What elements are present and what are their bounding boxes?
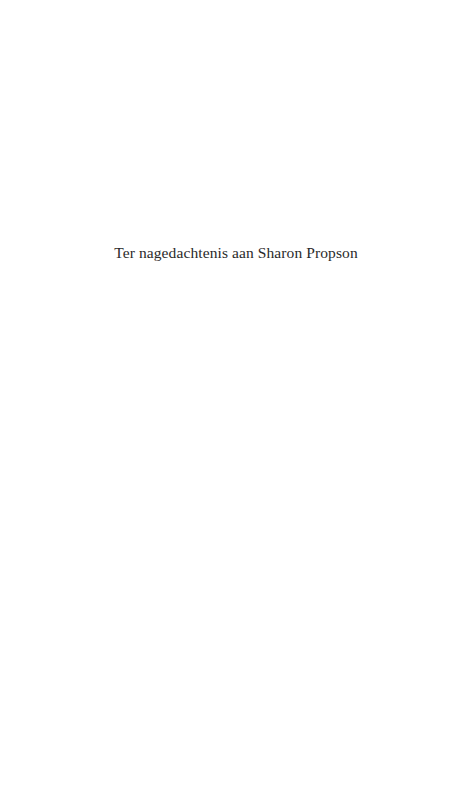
dedication-text: Ter nagedachtenis aan Sharon Propson <box>0 243 472 263</box>
book-page: Ter nagedachtenis aan Sharon Propson <box>0 0 472 791</box>
